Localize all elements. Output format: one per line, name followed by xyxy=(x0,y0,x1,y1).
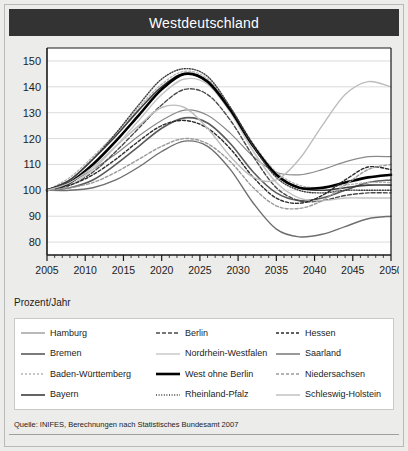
legend: HamburgBremenBaden-WürttembergBayernBerl… xyxy=(14,318,394,410)
legend-swatch-nordrhein_westfalen xyxy=(156,350,180,358)
legend-label-hamburg: Hamburg xyxy=(50,329,87,338)
source-divider xyxy=(9,434,399,435)
legend-swatch-hamburg xyxy=(21,329,45,337)
legend-label-saarland: Saarland xyxy=(305,349,341,358)
legend-label-niedersachsen: Niedersachsen xyxy=(305,370,365,379)
legend-swatch-niedersachsen xyxy=(276,370,300,378)
legend-swatch-baden_wuerttemberg xyxy=(21,370,45,378)
legend-label-schleswig_holstein: Schleswig-Holstein xyxy=(305,390,381,399)
legend-item-hamburg[interactable]: Hamburg xyxy=(21,329,156,338)
legend-item-west_ohne_berlin[interactable]: West ohne Berlin xyxy=(156,370,276,379)
line-chart-svg: 8090100110120130140150200520102015202020… xyxy=(9,40,399,295)
y-tick-150: 150 xyxy=(23,55,41,67)
legend-swatch-west_ohne_berlin xyxy=(156,370,180,378)
x-tick-2025: 2025 xyxy=(188,264,212,276)
x-tick-2010: 2010 xyxy=(74,264,98,276)
y-tick-90: 90 xyxy=(29,210,41,222)
legend-swatch-schleswig_holstein xyxy=(276,391,300,399)
legend-label-nordrhein_westfalen: Nordrhein-Westfalen xyxy=(185,349,267,358)
x-tick-2045: 2045 xyxy=(341,264,365,276)
y-tick-labels: 8090100110120130140150 xyxy=(23,55,41,248)
page-title: Westdeutschland xyxy=(149,15,259,31)
legend-swatch-rheinland_pfalz xyxy=(156,391,180,399)
legend-label-baden_wuerttemberg: Baden-Württemberg xyxy=(50,370,131,379)
legend-label-bremen: Bremen xyxy=(50,349,82,358)
legend-swatch-saarland xyxy=(276,350,300,358)
y-tick-100: 100 xyxy=(23,184,41,196)
legend-item-nordrhein_westfalen[interactable]: Nordrhein-Westfalen xyxy=(156,349,276,358)
legend-item-bayern[interactable]: Bayern xyxy=(21,390,156,399)
legend-item-saarland[interactable]: Saarland xyxy=(276,349,401,358)
legend-item-niedersachsen[interactable]: Niedersachsen xyxy=(276,370,401,379)
y-tick-80: 80 xyxy=(29,236,41,248)
legend-label-bayern: Bayern xyxy=(50,390,79,399)
x-minor-ticks xyxy=(47,255,391,261)
chart-page: Westdeutschland 809010011012013014015020… xyxy=(0,0,408,451)
plot-area: 8090100110120130140150200520102015202020… xyxy=(9,40,399,295)
source-note: Quelle: INIFES, Berechnungen nach Statis… xyxy=(14,420,238,429)
legend-label-berlin: Berlin xyxy=(185,329,208,338)
y-tick-130: 130 xyxy=(23,107,41,119)
x-tick-2005: 2005 xyxy=(35,264,59,276)
legend-item-schleswig_holstein[interactable]: Schleswig-Holstein xyxy=(276,390,401,399)
legend-label-rheinland_pfalz: Rheinland-Pfalz xyxy=(185,390,249,399)
y-tick-140: 140 xyxy=(23,81,41,93)
x-tick-labels: 2005201020152020202520302035204020452050 xyxy=(35,264,399,276)
legend-swatch-berlin xyxy=(156,329,180,337)
legend-label-west_ohne_berlin: West ohne Berlin xyxy=(185,370,253,379)
legend-item-bremen[interactable]: Bremen xyxy=(21,349,156,358)
y-axis-unit-label: Prozent/Jahr xyxy=(14,297,71,308)
legend-item-berlin[interactable]: Berlin xyxy=(156,329,276,338)
legend-item-rheinland_pfalz[interactable]: Rheinland-Pfalz xyxy=(156,390,276,399)
x-tick-2030: 2030 xyxy=(226,264,250,276)
legend-label-hessen: Hessen xyxy=(305,329,336,338)
y-tick-110: 110 xyxy=(23,158,41,170)
chart-title-bar: Westdeutschland xyxy=(9,9,399,36)
legend-swatch-bayern xyxy=(21,391,45,399)
x-tick-2040: 2040 xyxy=(303,264,327,276)
legend-grid: HamburgBremenBaden-WürttembergBayernBerl… xyxy=(15,319,393,409)
x-tick-2015: 2015 xyxy=(112,264,136,276)
legend-item-hessen[interactable]: Hessen xyxy=(276,329,401,338)
y-tick-120: 120 xyxy=(23,133,41,145)
x-tick-2020: 2020 xyxy=(150,264,174,276)
legend-item-baden_wuerttemberg[interactable]: Baden-Württemberg xyxy=(21,370,156,379)
legend-swatch-bremen xyxy=(21,350,45,358)
legend-swatch-hessen xyxy=(276,329,300,337)
x-tick-2050: 2050 xyxy=(379,264,399,276)
x-tick-2035: 2035 xyxy=(265,264,289,276)
